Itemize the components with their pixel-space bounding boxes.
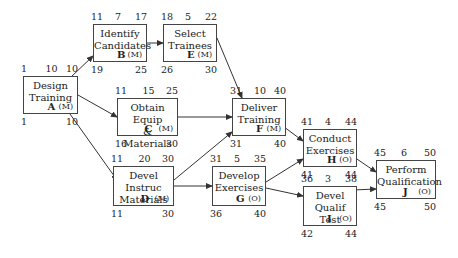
node-a-dur: 10 bbox=[46, 64, 58, 74]
node-g-ls: 36 bbox=[210, 209, 222, 219]
node-c-dur: 15 bbox=[143, 86, 155, 96]
node-i-lf: 44 bbox=[345, 229, 357, 239]
node-h-es: 41 bbox=[301, 117, 313, 127]
node-g-lf: 40 bbox=[254, 209, 266, 219]
node-b-es: 11 bbox=[91, 12, 103, 22]
node-d-lf: 30 bbox=[162, 209, 174, 219]
activity-id: I bbox=[327, 213, 332, 224]
node-g-es: 31 bbox=[210, 154, 222, 164]
node-d-ls: 11 bbox=[111, 209, 123, 219]
activity-type: (M) bbox=[59, 102, 73, 111]
arrow-g-to-i bbox=[266, 188, 303, 196]
activity-name: PerformQualification bbox=[377, 164, 435, 188]
node-a-ls: 1 bbox=[21, 117, 27, 127]
node-e-es: 18 bbox=[161, 12, 173, 22]
activity-id: C bbox=[145, 123, 153, 134]
node-j-lf: 50 bbox=[424, 202, 436, 212]
activity-node-d: Devel InstrucMaterialsD(M) bbox=[113, 166, 174, 206]
node-b-ls: 19 bbox=[91, 65, 103, 75]
activity-name: DevelopExercises bbox=[213, 170, 265, 194]
activity-type: (O) bbox=[248, 194, 261, 203]
node-e-ef: 22 bbox=[205, 12, 217, 22]
node-c-lf: 30 bbox=[166, 139, 178, 149]
node-a-lf: 10 bbox=[66, 117, 78, 127]
node-j-ls: 45 bbox=[374, 202, 386, 212]
node-b-ef: 17 bbox=[135, 12, 147, 22]
node-g-dur: 5 bbox=[234, 154, 240, 164]
activity-node-b: IdentifyCandidatesB(M) bbox=[93, 24, 147, 62]
activity-id: J bbox=[403, 186, 408, 197]
node-j-dur: 6 bbox=[401, 148, 407, 158]
node-f-ls: 31 bbox=[230, 139, 242, 149]
node-c-ls: 16 bbox=[115, 139, 127, 149]
node-i-ef: 38 bbox=[345, 174, 357, 184]
activity-id: G bbox=[236, 193, 245, 204]
node-e-ls: 26 bbox=[161, 65, 173, 75]
activity-type: (M) bbox=[155, 194, 169, 203]
activity-id: H bbox=[327, 154, 336, 165]
node-g-ef: 35 bbox=[254, 154, 266, 164]
activity-type: (M) bbox=[159, 124, 173, 133]
arrow-g-to-h bbox=[266, 159, 303, 182]
activity-node-h: ConductExercisesH(O) bbox=[303, 129, 357, 167]
node-d-dur: 20 bbox=[139, 154, 151, 164]
node-h-ef: 44 bbox=[345, 117, 357, 127]
node-h-dur: 4 bbox=[325, 117, 331, 127]
node-c-es: 11 bbox=[115, 86, 127, 96]
node-b-lf: 25 bbox=[135, 65, 147, 75]
activity-id: D bbox=[141, 193, 150, 204]
activity-id: E bbox=[187, 49, 195, 60]
node-i-es: 36 bbox=[301, 174, 313, 184]
node-i-dur: 3 bbox=[325, 174, 331, 184]
node-f-es: 31 bbox=[230, 86, 242, 96]
activity-type: (M) bbox=[198, 50, 212, 59]
activity-node-a: DesignTrainingA(M) bbox=[23, 76, 78, 114]
activity-node-f: DeliverTrainingF(M) bbox=[232, 98, 286, 136]
node-f-ef: 40 bbox=[274, 86, 286, 96]
activity-node-i: Devel QualifTestI(O) bbox=[303, 186, 357, 226]
node-c-ef: 25 bbox=[166, 86, 178, 96]
activity-type: (O) bbox=[418, 187, 431, 196]
node-j-ef: 50 bbox=[424, 148, 436, 158]
node-f-lf: 40 bbox=[274, 139, 286, 149]
node-e-lf: 30 bbox=[205, 65, 217, 75]
node-j-es: 45 bbox=[374, 148, 386, 158]
activity-type: (M) bbox=[267, 124, 281, 133]
activity-id: A bbox=[48, 101, 56, 112]
node-d-es: 11 bbox=[111, 154, 123, 164]
node-i-ls: 42 bbox=[301, 229, 313, 239]
activity-id: B bbox=[117, 49, 125, 60]
node-f-dur: 10 bbox=[254, 86, 266, 96]
activity-node-c: Obtain Equip& MaterialsC(M) bbox=[117, 98, 178, 136]
activity-type: (O) bbox=[339, 214, 352, 223]
activity-type: (O) bbox=[339, 155, 352, 164]
node-a-ef: 10 bbox=[66, 64, 78, 74]
arrow-a-to-c bbox=[78, 95, 117, 117]
node-e-dur: 5 bbox=[185, 12, 191, 22]
activity-type: (M) bbox=[128, 50, 142, 59]
activity-node-j: PerformQualificationJ(O) bbox=[376, 160, 436, 199]
node-b-dur: 7 bbox=[115, 12, 121, 22]
activity-id: F bbox=[256, 123, 263, 134]
activity-node-g: DevelopExercisesG(O) bbox=[212, 166, 266, 206]
dependency-arrows bbox=[0, 0, 458, 258]
node-d-ef: 30 bbox=[162, 154, 174, 164]
activity-node-e: SelectTraineesE(M) bbox=[163, 24, 217, 62]
node-a-es: 1 bbox=[21, 64, 27, 74]
